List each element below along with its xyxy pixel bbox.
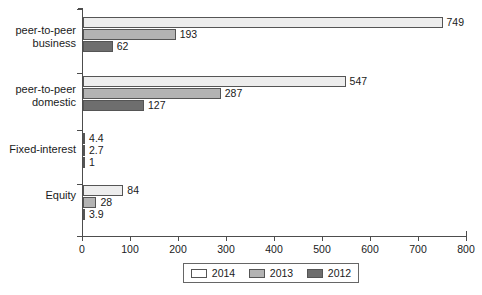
- category-label-equity: Equity: [45, 189, 76, 202]
- legend-swatch-2014-icon: [191, 269, 207, 278]
- bar-fixed-interest-2013: [83, 145, 85, 156]
- legend-label-2012: 2012: [328, 267, 351, 279]
- bar-equity-2014: [83, 185, 123, 196]
- x-axis-tick-label: 300: [217, 243, 235, 255]
- chart-legend: 2014 2013 2012: [183, 263, 359, 283]
- bar-peer-to-peer-domestic-2013: [83, 88, 221, 99]
- bar-value-fixed-interest-2012: 1: [89, 157, 95, 168]
- x-axis-tick-label: 200: [169, 243, 187, 255]
- legend-label-2014: 2014: [212, 267, 235, 279]
- x-axis-tick-label: 400: [265, 243, 283, 255]
- category-axis-labels: peer-to-peer business peer-to-peer domes…: [0, 0, 76, 236]
- legend-swatch-2012-icon: [307, 269, 323, 278]
- bar-peer-to-peer-business-2014: [83, 17, 443, 28]
- x-axis-tick-label: 800: [457, 243, 475, 255]
- x-axis-tick: [322, 236, 323, 241]
- x-axis-tick: [274, 236, 275, 241]
- bar-fixed-interest-2012: [83, 157, 85, 168]
- x-axis-tick: [370, 236, 371, 241]
- bar-peer-to-peer-domestic-2014: [83, 76, 346, 87]
- bar-value-peer-to-peer-domestic-2013: 287: [225, 88, 243, 99]
- bar-equity-2012: [83, 209, 85, 220]
- bar-value-peer-to-peer-business-2014: 749: [447, 17, 465, 28]
- legend-item-2014[interactable]: 2014: [191, 267, 235, 279]
- bar-chart: peer-to-peer business peer-to-peer domes…: [0, 0, 482, 295]
- y-axis-tick: [77, 130, 82, 131]
- legend-item-2012[interactable]: 2012: [307, 267, 351, 279]
- x-axis-tick-label: 100: [121, 243, 139, 255]
- category-label-peer-to-peer-business: peer-to-peer business: [15, 24, 76, 50]
- x-axis-tick-label: 700: [409, 243, 427, 255]
- category-label-peer-to-peer-domestic: peer-to-peer domestic: [15, 83, 76, 109]
- bar-peer-to-peer-business-2013: [83, 29, 176, 40]
- bar-value-equity-2014: 84: [127, 185, 139, 196]
- bar-value-fixed-interest-2013: 2.7: [89, 145, 104, 156]
- bar-equity-2013: [83, 197, 96, 208]
- x-axis-tick: [130, 236, 131, 241]
- x-axis-tick-label: 0: [79, 243, 85, 255]
- x-axis-tick: [466, 236, 467, 241]
- x-axis-tick: [226, 236, 227, 241]
- bar-value-peer-to-peer-business-2013: 193: [180, 29, 198, 40]
- plot-area: 0 100 200 300 400 500 600 700 800 749 19…: [82, 8, 466, 236]
- legend-swatch-2013-icon: [249, 269, 265, 278]
- bar-fixed-interest-2014: [83, 133, 85, 144]
- bar-value-equity-2013: 28: [100, 197, 112, 208]
- legend-label-2013: 2013: [270, 267, 293, 279]
- bar-peer-to-peer-domestic-2012: [83, 100, 144, 111]
- x-axis-tick: [418, 236, 419, 241]
- bar-value-peer-to-peer-business-2012: 62: [117, 41, 129, 52]
- category-label-fixed-interest: Fixed-interest: [9, 143, 76, 156]
- legend-item-2013[interactable]: 2013: [249, 267, 293, 279]
- bar-value-equity-2012: 3.9: [89, 209, 104, 220]
- y-axis-tick: [77, 184, 82, 185]
- x-axis-tick: [82, 236, 83, 241]
- y-axis-tick: [77, 9, 82, 10]
- bar-value-peer-to-peer-domestic-2014: 547: [350, 76, 368, 87]
- x-axis-tick: [178, 236, 179, 241]
- bar-value-peer-to-peer-domestic-2012: 127: [148, 100, 166, 111]
- y-axis-tick: [77, 73, 82, 74]
- bar-peer-to-peer-business-2012: [83, 41, 113, 52]
- x-axis-tick-label: 600: [361, 243, 379, 255]
- x-axis-tick-label: 500: [313, 243, 331, 255]
- bar-value-fixed-interest-2014: 4.4: [89, 133, 104, 144]
